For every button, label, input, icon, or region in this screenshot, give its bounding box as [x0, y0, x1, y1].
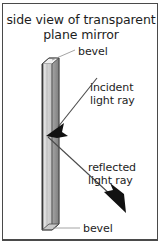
reflected-ray-arrowhead	[104, 183, 126, 213]
mirror-plate	[42, 58, 59, 230]
incident-ray-label-line-2: light ray	[90, 94, 135, 107]
bevel-top-label: bevel	[78, 45, 108, 58]
incident-ray-label: incident light ray	[90, 81, 135, 107]
reflected-ray-label: reflected light ray	[88, 161, 136, 187]
diagram-canvas	[0, 0, 162, 247]
mirror-diagram-page: side view of transparent plane mirror	[0, 0, 162, 247]
reflected-ray-label-line-2: light ray	[88, 174, 136, 187]
bevel-top-leader-line	[52, 50, 75, 60]
incident-ray-label-line-1: incident	[90, 81, 135, 94]
bevel-bottom-label: bevel	[83, 222, 113, 235]
reflected-ray-label-line-1: reflected	[88, 161, 136, 174]
